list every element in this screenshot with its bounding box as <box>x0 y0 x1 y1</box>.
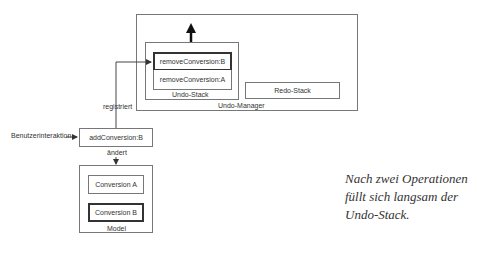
caption-text: Nach zwei Operationen füllt sich langsam… <box>345 170 475 224</box>
